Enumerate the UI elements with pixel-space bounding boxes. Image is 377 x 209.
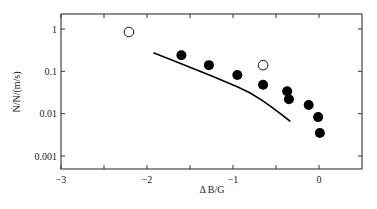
curve-line [154, 53, 290, 121]
data-points [124, 27, 325, 138]
y-tick-label: 0.001 [35, 151, 58, 162]
filled-circle-marker [304, 100, 314, 110]
y-tick-label: 0.1 [45, 66, 58, 77]
y-tick-label: 1 [52, 24, 57, 35]
x-tick-label: −2 [142, 174, 153, 185]
x-tick-label: −3 [56, 174, 67, 185]
filled-circle-marker [313, 112, 323, 122]
chart: −3−2−10 10.10.010.001 Δ B/G Ṅ/N/(m/s) [0, 0, 377, 209]
axis-ticks [61, 14, 362, 169]
open-circle-marker [124, 27, 134, 37]
filled-circle-marker [284, 94, 294, 104]
filled-circle-marker [315, 128, 325, 138]
x-tick-labels: −3−2−10 [56, 174, 322, 185]
y-axis-label: Ṅ/N/(m/s) [11, 71, 23, 112]
y-tick-labels: 10.10.010.001 [35, 24, 58, 162]
theory-curve [154, 53, 290, 121]
filled-circle-marker [258, 80, 268, 90]
x-axis-label: Δ B/G [199, 184, 224, 195]
y-tick-label: 0.01 [40, 108, 58, 119]
filled-circle-marker [232, 70, 242, 80]
x-tick-label: 0 [317, 174, 322, 185]
filled-circle-marker [176, 50, 186, 60]
plot-frame [61, 14, 362, 169]
open-circle-marker [258, 60, 268, 70]
x-tick-label: −1 [228, 174, 239, 185]
filled-circle-marker [204, 60, 214, 70]
plot-border [61, 14, 362, 169]
